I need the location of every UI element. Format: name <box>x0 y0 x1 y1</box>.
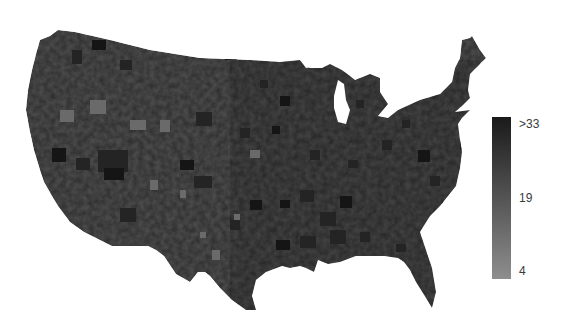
county-low <box>60 110 74 122</box>
legend-label-min: 4 <box>519 265 526 277</box>
county-low <box>90 100 106 114</box>
county-high <box>330 230 346 244</box>
county-high <box>180 160 194 170</box>
county-high <box>430 176 440 186</box>
county-high <box>240 128 250 138</box>
county-high <box>402 120 410 128</box>
county-low <box>250 150 260 158</box>
county-high <box>320 212 336 226</box>
county-high <box>348 160 358 168</box>
county-high <box>76 158 90 170</box>
county-high <box>310 150 320 160</box>
county-high <box>300 236 316 248</box>
legend-gradient-bar <box>492 117 511 279</box>
county-high <box>260 80 268 88</box>
map-fill-group <box>0 0 566 329</box>
county-high <box>460 140 466 150</box>
county-high <box>225 48 237 60</box>
county-high <box>360 232 370 242</box>
county-high <box>194 176 212 188</box>
county-low <box>234 214 240 220</box>
color-legend <box>492 117 511 279</box>
county-high <box>300 190 314 202</box>
county-high <box>442 202 450 210</box>
county-high <box>272 126 280 134</box>
county-high <box>250 200 262 210</box>
county-high <box>52 148 66 162</box>
us-county-map <box>0 0 566 329</box>
legend-label-max: >33 <box>519 118 539 130</box>
legend-label-mid: 19 <box>519 192 532 204</box>
county-high <box>382 140 392 150</box>
choropleth-map <box>0 0 566 329</box>
county-high <box>196 112 212 126</box>
county-high <box>280 200 290 208</box>
county-high <box>396 244 406 252</box>
county-low <box>150 180 158 190</box>
county-high <box>120 208 136 222</box>
county-high <box>356 100 364 108</box>
county-low <box>212 250 220 260</box>
county-high <box>72 50 82 64</box>
county-low <box>180 190 186 198</box>
county-high <box>92 40 106 50</box>
county-low <box>160 120 170 132</box>
county-high <box>120 60 132 70</box>
county-high <box>280 96 290 106</box>
county-low <box>130 120 146 130</box>
county-low <box>200 232 206 238</box>
county-high <box>418 150 430 162</box>
county-high <box>340 196 352 208</box>
county-high <box>276 240 290 250</box>
county-high <box>230 220 240 230</box>
county-high <box>104 168 124 180</box>
